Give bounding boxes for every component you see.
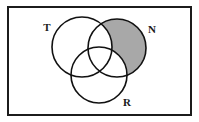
set-label-t: T bbox=[43, 21, 51, 33]
venn-diagram-canvas: T N R bbox=[0, 0, 199, 122]
venn-diagram-figure: T N R bbox=[0, 0, 199, 122]
set-label-n: N bbox=[148, 23, 156, 35]
set-label-r: R bbox=[123, 96, 132, 108]
